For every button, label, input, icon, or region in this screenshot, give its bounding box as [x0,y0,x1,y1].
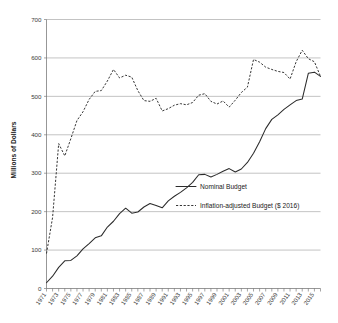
y-axis-tick-label: 700 [31,16,42,23]
legend-label-nominal-budget: Nominal Budget [200,183,247,191]
x-axis-tick-label: 2003 [230,291,243,306]
x-axis-tick-label: 1991 [157,291,170,306]
x-axis-tick-label: 1975 [59,291,72,306]
x-axis-tick-label: 1997 [193,291,206,306]
x-axis-tick-label: 2005 [242,291,255,306]
x-axis-tick-label: 1987 [132,291,145,306]
x-axis-tick-label: 2011 [279,291,292,306]
legend-label-inflation-adjusted-budget: Inflation-adjusted Budget ($ 2016) [200,202,299,210]
y-axis-tick-labels: 0100200300400500600700 [31,16,42,292]
x-axis-tick-label: 1993 [169,291,182,306]
x-axis-tick-label: 1989 [144,291,157,306]
y-axis-tick-label: 300 [31,169,42,176]
y-axis-tick-label: 0 [38,285,42,292]
y-axis-title: Millions of Dollars [10,121,17,178]
x-axis-tick-label: 1973 [47,291,60,306]
x-axis-tick-label: 1971 [35,291,48,306]
x-axis-tick-label: 2015 [303,291,316,306]
y-axis-tick-label: 200 [31,208,42,215]
y-axis-tick-label: 400 [31,131,42,138]
series-line-inflation-adjusted-budget [47,50,321,253]
line-chart: 0100200300400500600700 19711973197519771… [0,0,338,323]
x-axis-tick-label: 1983 [108,291,121,306]
x-axis-tick-label: 1981 [96,291,109,306]
x-axis-tick-label: 1999 [205,291,218,306]
x-axis-tick-labels: 1971197319751977197919811983198519871989… [35,291,316,306]
x-axis-tick-label: 2009 [266,291,279,306]
chart-legend: Nominal Budget Inflation-adjusted Budget… [176,183,299,210]
x-axis-tick-label: 1985 [120,291,133,306]
x-axis-tick-label: 1995 [181,291,194,306]
y-axis-tick-label: 600 [31,54,42,61]
y-axis-tick-label: 500 [31,93,42,100]
x-axis-tick-label: 1977 [71,291,84,306]
chart-container: 0100200300400500600700 19711973197519771… [0,0,338,323]
series-line-nominal-budget [47,72,321,283]
y-axis-tick-label: 100 [31,246,42,253]
gridlines-group [44,20,321,289]
x-axis-tick-label: 1979 [83,291,96,306]
x-axis-tick-label: 2013 [290,291,303,306]
x-axis-tick-label: 2007 [254,291,267,306]
x-axis-tick-marks [47,289,321,292]
x-axis-tick-label: 2001 [217,291,230,306]
